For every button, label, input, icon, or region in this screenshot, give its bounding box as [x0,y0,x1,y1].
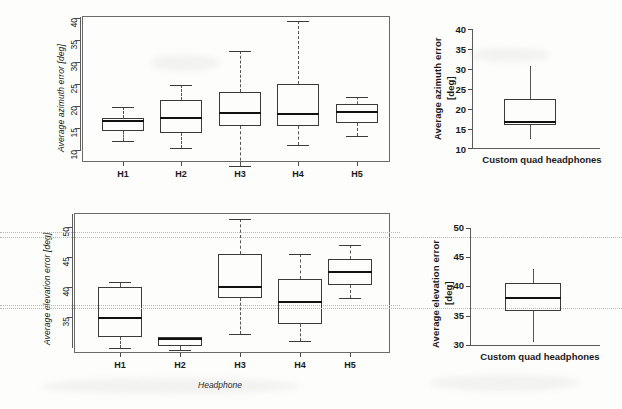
boxplot-whisker-cap-upper [289,254,311,255]
boxplot-whisker-cap-upper [346,97,368,98]
boxplot-median [278,301,322,303]
scan-artifact [40,378,300,394]
boxplot-whisker-upper [357,97,358,105]
boxplot-whisker-upper [300,254,301,280]
boxplot-whisker-cap-lower [112,141,134,142]
boxplot-whisker-cap-lower [229,334,251,335]
boxplot-whisker-cap-upper [229,219,251,220]
boxplot-box [98,287,142,336]
boxplot-whisker-lower [123,131,124,141]
boxplot-whisker-upper [530,66,531,99]
boxplot-whisker-lower [181,133,182,148]
boxplot-median [336,111,378,113]
boxplot-whisker-cap-upper [229,51,251,52]
boxplot-box [218,254,262,298]
boxplot-whisker-cap-upper [109,282,131,283]
scan-artifact [470,48,550,62]
boxplot-whisker-upper [350,245,351,259]
boxplot-whisker-cap-upper [339,245,361,246]
boxplot-whisker-cap-lower [109,348,131,349]
boxplot-median [277,113,319,115]
boxplot-median [328,271,372,273]
boxplot-whisker-cap-lower [339,298,361,299]
boxplot-whisker-cap-lower [346,136,368,137]
boxplot-whisker-lower [240,298,241,334]
boxplot-whisker-cap-upper [287,21,309,22]
boxplot-whisker-lower [533,311,534,341]
boxplot-layer-azimuth-custom [400,0,622,200]
panel-azimuth-by-headphone: Average azimuth error [deg] 10 15 20 25 … [0,0,400,200]
boxplot-median [98,317,142,319]
boxplot-box [336,104,378,122]
boxplot-median [218,286,262,288]
boxplot-median [160,117,202,119]
boxplot-whisker-upper [240,51,241,92]
boxplot-median [219,112,261,114]
boxplot-whisker-cap-upper [170,85,192,86]
boxplot-whisker-cap-lower [289,341,311,342]
boxplot-whisker-lower [350,285,351,298]
boxplot-whisker-lower [298,126,299,145]
boxplot-median [102,120,144,122]
boxplot-box [277,84,319,126]
boxplot-layer-azimuth [0,0,400,200]
boxplot-whisker-cap-lower [287,145,309,146]
boxplot-whisker-lower [530,125,531,138]
boxplot-whisker-lower [120,337,121,348]
boxplot-whisker-cap-upper [530,66,531,67]
boxplot-whisker-cap-lower [533,341,534,342]
boxplot-box [219,92,261,126]
boxplot-whisker-cap-upper [533,269,534,270]
figure-boxplot-panels: Average azimuth error [deg] 10 15 20 25 … [0,0,622,409]
scan-artifact [430,375,580,391]
boxplot-median [158,338,202,340]
boxplot-whisker-cap-upper [112,107,134,108]
boxplot-whisker-upper [181,85,182,100]
boxplot-whisker-lower [300,324,301,341]
boxplot-whisker-lower [240,126,241,166]
boxplot-whisker-upper [533,269,534,283]
panel-azimuth-custom: Average azimuth error [deg] 40 35 30 25 … [400,0,622,200]
boxplot-whisker-upper [298,21,299,83]
boxplot-whisker-cap-lower [169,350,191,351]
boxplot-median [504,121,556,123]
boxplot-whisker-cap-lower [530,138,531,139]
boxplot-whisker-cap-lower [229,166,251,167]
boxplot-median [505,297,561,299]
scan-artifact [150,55,220,71]
boxplot-whisker-lower [357,123,358,136]
boxplot-whisker-upper [123,107,124,119]
boxplot-whisker-cap-lower [170,148,192,149]
